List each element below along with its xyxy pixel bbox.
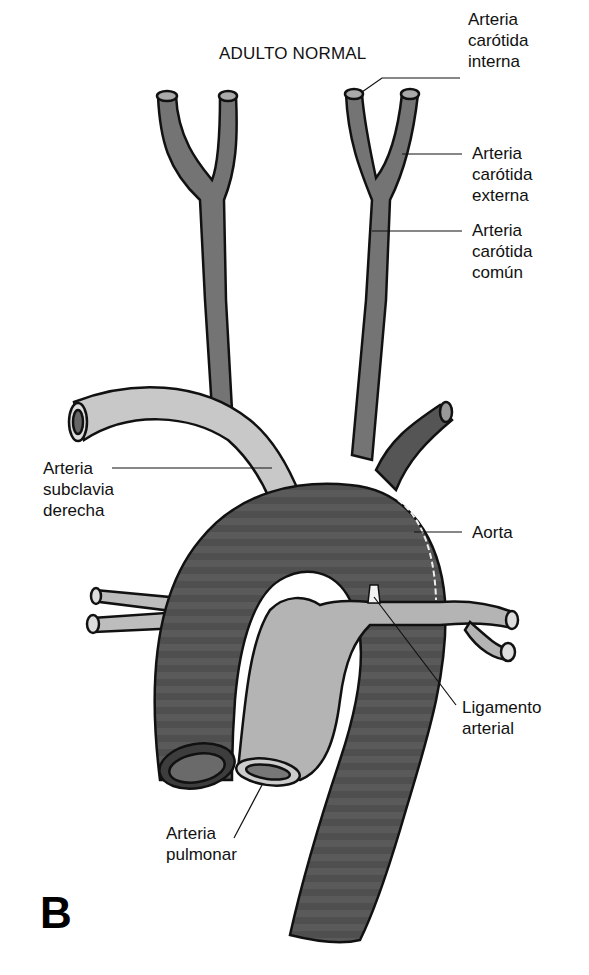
panel-letter: B (40, 888, 72, 938)
diagram-title: ADULTO NORMAL (219, 44, 366, 64)
label-ligamento-arterial: Ligamento arterial (462, 697, 541, 739)
ligamentum-arteriosum (368, 585, 380, 603)
label-aorta: Aorta (472, 522, 513, 543)
label-arteria-pulmonar: Arteria pulmonar (166, 823, 237, 865)
label-carotida-externa: Arteria carótida externa (472, 143, 532, 206)
anatomy-diagram: ADULTO NORMAL Arteria carótida interna A… (0, 0, 589, 975)
right-carotid-vessel (157, 91, 237, 410)
left-subclavian-vessel (376, 402, 452, 490)
label-subclavia-derecha: Arteria subclavia derecha (43, 458, 114, 521)
label-carotida-comun: Arteria carótida común (472, 220, 532, 283)
label-carotida-interna: Arteria carótida interna (468, 9, 528, 72)
left-carotid-vessel (345, 89, 419, 460)
